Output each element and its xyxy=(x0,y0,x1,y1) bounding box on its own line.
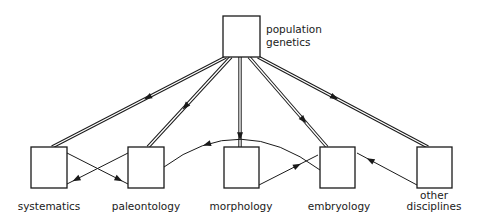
node-label-paleontology: paleontology xyxy=(112,200,180,212)
edge-population-genetics-to-embryology xyxy=(249,57,327,147)
single-connector xyxy=(259,155,318,185)
edge-population-genetics-to-systematics xyxy=(52,57,226,147)
label-line: systematics xyxy=(18,200,81,212)
single-connector xyxy=(357,153,417,185)
arrowhead-icon xyxy=(73,175,81,181)
node-box-population-genetics xyxy=(223,16,260,57)
diagram-canvas: populationgeneticssystematicspaleontolog… xyxy=(0,0,484,224)
edge-population-genetics-to-morphology xyxy=(237,57,243,147)
edge-population-genetics-to-paleontology xyxy=(148,57,231,147)
node-label-systematics: systematics xyxy=(18,200,81,212)
node-box-embryology xyxy=(320,147,355,188)
node-box-morphology xyxy=(224,147,259,188)
label-line: embryology xyxy=(308,200,371,212)
node-label-embryology: embryology xyxy=(308,200,371,212)
label-line: disciplines xyxy=(407,200,462,212)
edge-morphology-to-embryology xyxy=(259,155,318,185)
node-box-systematics xyxy=(31,147,67,188)
label-line: morphology xyxy=(210,200,273,212)
arrowhead-icon xyxy=(367,158,375,164)
double-connector-gap xyxy=(52,57,226,147)
arrowhead-icon xyxy=(114,175,122,181)
arrowhead-icon xyxy=(203,140,212,146)
node-label-population-genetics: populationgenetics xyxy=(266,23,322,48)
double-connector-gap xyxy=(258,57,428,147)
double-connector-gap xyxy=(249,57,327,147)
arrowhead-icon xyxy=(292,164,300,170)
label-line: paleontology xyxy=(112,200,180,212)
label-line: genetics xyxy=(266,36,311,48)
edge-population-genetics-to-other-disciplines xyxy=(258,57,428,147)
label-line: population xyxy=(266,23,322,35)
node-box-other-disciplines xyxy=(417,147,452,188)
node-box-paleontology xyxy=(128,147,164,188)
node-label-morphology: morphology xyxy=(210,200,273,212)
node-label-other-disciplines: otherdisciplines xyxy=(407,189,462,212)
edge-other-disciplines-to-embryology xyxy=(357,153,417,185)
double-connector-gap xyxy=(148,57,231,147)
